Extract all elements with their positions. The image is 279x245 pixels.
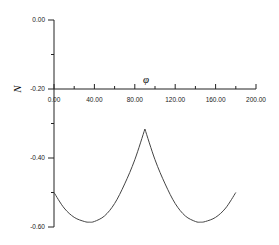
y-tick-label: -0.40 [30,154,45,161]
x-axis: 0.0040.0080.00120.00160.00200.00 [48,84,267,103]
y-axis: 0.00-0.20-0.40-0.60 [30,16,54,230]
x-tick-label: 160.00 [206,96,226,103]
y-axis-label: N [11,85,23,94]
y-tick-label: -0.20 [30,85,45,92]
x-tick-label: 0.00 [48,96,61,103]
x-tick-label: 200.00 [246,96,266,103]
x-tick-label: 80.00 [127,96,144,103]
y-tick-label: -0.60 [30,223,45,230]
x-tick-label: 40.00 [86,96,103,103]
x-axis-label: φ [143,73,149,85]
x-tick-label: 120.00 [165,96,185,103]
data-line [54,129,236,222]
y-tick-label: 0.00 [32,16,45,23]
chart: 0.00-0.20-0.40-0.60 0.0040.0080.00120.00… [0,0,279,245]
